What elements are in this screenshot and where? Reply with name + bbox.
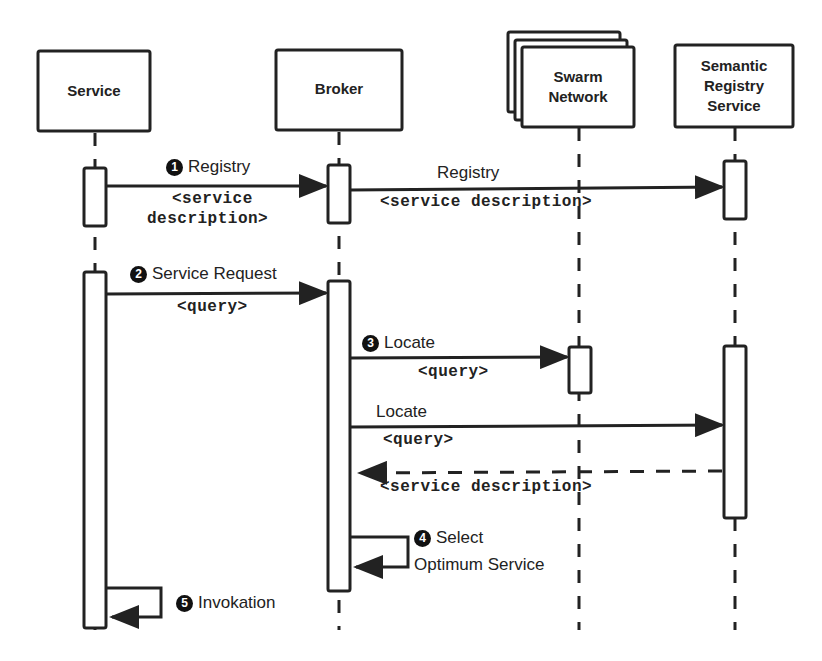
message-1-text: Registry	[188, 157, 250, 176]
registry-line-2: Registry	[704, 76, 764, 96]
message-3-payload: <query>	[418, 363, 489, 381]
message-1-label: 1Registry	[166, 157, 250, 177]
step-4-icon: 4	[414, 530, 431, 547]
participant-swarm-network: Swarm Network	[522, 47, 634, 127]
participant-service: Service	[38, 51, 150, 131]
registry-line-3: Service	[707, 96, 760, 116]
message-2-text: Service Request	[152, 264, 277, 283]
step-3-icon: 3	[362, 335, 379, 352]
message-1-payload-2: description>	[147, 210, 268, 228]
message-4-label-line2: Optimum Service	[414, 555, 544, 575]
participant-broker: Broker	[276, 50, 402, 128]
return-message-payload: <service description>	[380, 478, 592, 496]
step-2-icon: 2	[130, 266, 147, 283]
message-5-label: 5Invokation	[176, 593, 276, 613]
participant-semantic-registry: Semantic Registry Service	[675, 45, 793, 127]
message-3-text: Locate	[384, 333, 435, 352]
message-2-payload: <query>	[177, 298, 248, 316]
step-1-icon: 1	[166, 159, 183, 176]
message-registry-forward-payload: <service description>	[380, 193, 592, 211]
message-1-payload-1: <service	[172, 190, 253, 208]
message-locate-registry-payload: <query>	[383, 431, 454, 449]
message-4-label: 4Select	[414, 528, 483, 548]
message-registry-forward-label: Registry	[437, 163, 499, 183]
message-3-label: 3Locate	[362, 333, 435, 353]
message-2-label: 2Service Request	[130, 264, 277, 284]
message-locate-registry-label: Locate	[376, 402, 427, 422]
message-5-text: Invokation	[198, 593, 276, 612]
step-5-icon: 5	[176, 595, 193, 612]
message-4-text: Select	[436, 528, 483, 547]
swarm-line-2: Network	[548, 87, 607, 107]
registry-line-1: Semantic	[701, 56, 768, 76]
swarm-line-1: Swarm	[553, 67, 602, 87]
